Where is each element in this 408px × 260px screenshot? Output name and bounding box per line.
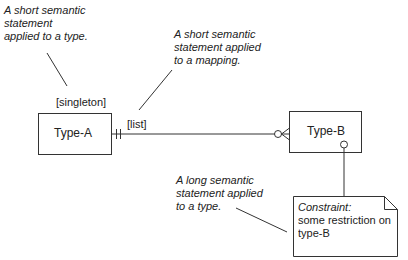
constraint-line: some restriction on [298, 214, 391, 227]
mapping-annotation-line: statement applied [174, 41, 261, 54]
type-b-label: Type-B [307, 125, 345, 138]
constraint-line: type-B [298, 227, 391, 240]
type-annotation: A short semantic statement applied to a … [4, 4, 88, 43]
mapping-annotation-leader [139, 70, 172, 110]
cardinality-zero-circle [275, 131, 282, 138]
mapping-annotation-line: to a mapping. [174, 54, 261, 67]
type-annotation-line: A short semantic [4, 4, 88, 17]
type-a-label: Type-A [54, 127, 92, 140]
relationship-label: [list] [127, 118, 147, 131]
constraint-anchor-circle [341, 141, 348, 148]
type-annotation-line: applied to a type. [4, 30, 88, 43]
long-type-annotation: A long semantic statement applied to a t… [176, 174, 263, 213]
long-annotation-line: statement applied [176, 187, 263, 200]
crows-foot-lower [282, 134, 290, 140]
mapping-annotation: A short semantic statement applied to a … [174, 28, 261, 67]
constraint-note-text: Constraint: some restriction on type-B [298, 201, 391, 255]
long-annotation-line: A long semantic [176, 174, 263, 187]
constraint-title: Constraint: [298, 201, 391, 214]
long-annotation-line: to a type. [176, 200, 263, 213]
crows-foot-upper [282, 128, 290, 134]
type-annotation-line: statement [4, 17, 88, 30]
mapping-annotation-line: A short semantic [174, 28, 261, 41]
singleton-stereotype: [singleton] [56, 96, 106, 109]
type-annotation-leader [47, 53, 67, 86]
